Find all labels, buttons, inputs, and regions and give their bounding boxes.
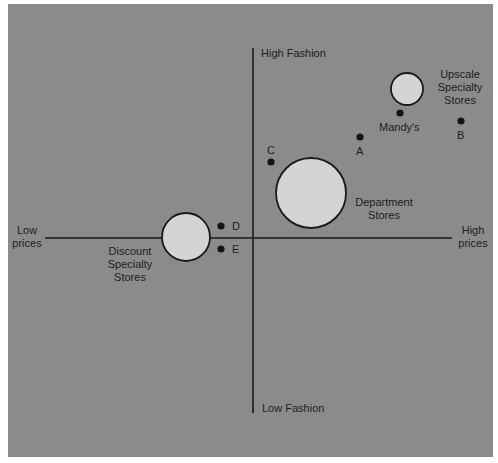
- label-discount-specialty-stores: Discount Specialty Stores: [100, 245, 160, 284]
- axis-label-low-fashion: Low Fashion: [262, 402, 324, 415]
- point-c: [267, 158, 274, 165]
- segment-discount-specialty-stores: [162, 213, 210, 261]
- label-point-a: A: [356, 145, 363, 158]
- label-discount-line-3: Stores: [100, 271, 160, 284]
- segment-upscale-specialty-stores: [391, 73, 423, 105]
- label-upscale-line-3: Stores: [432, 94, 488, 107]
- axis-label-low-prices-line-1: Low: [10, 224, 44, 237]
- perceptual-map: [0, 0, 498, 463]
- point-b: [457, 117, 464, 124]
- axis-label-low-prices-line-2: prices: [10, 237, 44, 250]
- axis-label-low-prices: Low prices: [10, 224, 44, 250]
- axis-label-high-prices: High prices: [455, 224, 491, 250]
- axis-label-high-fashion: High Fashion: [261, 47, 326, 60]
- label-point-c: C: [267, 144, 275, 157]
- label-upscale-line-2: Specialty: [432, 81, 488, 94]
- axis-label-high-prices-line-2: prices: [455, 237, 491, 250]
- label-department-line-1: Department: [350, 196, 418, 209]
- point-d: [217, 222, 224, 229]
- point-mandys: [396, 109, 403, 116]
- label-upscale-specialty-stores: Upscale Specialty Stores: [432, 68, 488, 107]
- label-department-line-2: Stores: [350, 209, 418, 222]
- label-discount-line-2: Specialty: [100, 258, 160, 271]
- label-department-stores: Department Stores: [350, 196, 418, 222]
- point-a: [356, 133, 363, 140]
- label-point-mandys: Mandy's: [379, 121, 420, 134]
- label-point-e: E: [232, 243, 239, 256]
- segment-department-stores: [276, 158, 346, 228]
- label-point-d: D: [232, 220, 240, 233]
- label-point-b: B: [457, 129, 464, 142]
- axis-label-high-prices-line-1: High: [455, 224, 491, 237]
- label-discount-line-1: Discount: [100, 245, 160, 258]
- point-e: [217, 245, 224, 252]
- label-upscale-line-1: Upscale: [432, 68, 488, 81]
